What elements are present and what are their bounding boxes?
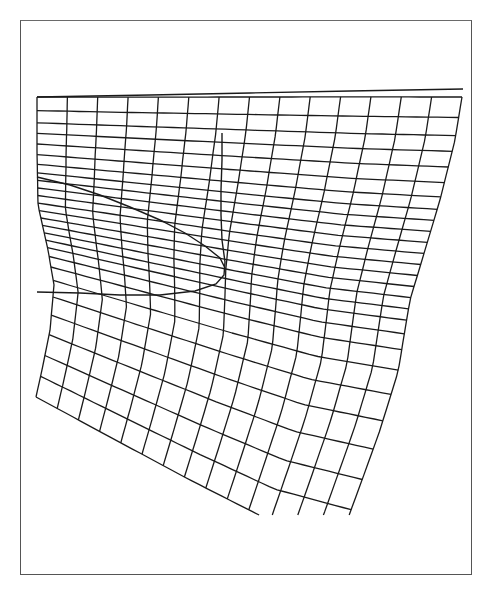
deformed-mesh-diagram: [0, 0, 491, 591]
mesh-column-line: [323, 97, 431, 515]
mesh-row-line: [49, 335, 373, 449]
top-extension: [37, 89, 463, 97]
mesh-column-line: [349, 97, 462, 515]
mesh-row-line: [45, 356, 362, 480]
mesh-extra-lines: [37, 89, 463, 97]
mesh-row-line: [36, 397, 259, 515]
mesh-column-line: [36, 97, 54, 397]
mesh-column-line: [121, 97, 159, 443]
mesh-row-line: [51, 315, 383, 421]
mesh-horizontal-lines: [36, 97, 462, 515]
mesh-row-line: [41, 376, 352, 509]
